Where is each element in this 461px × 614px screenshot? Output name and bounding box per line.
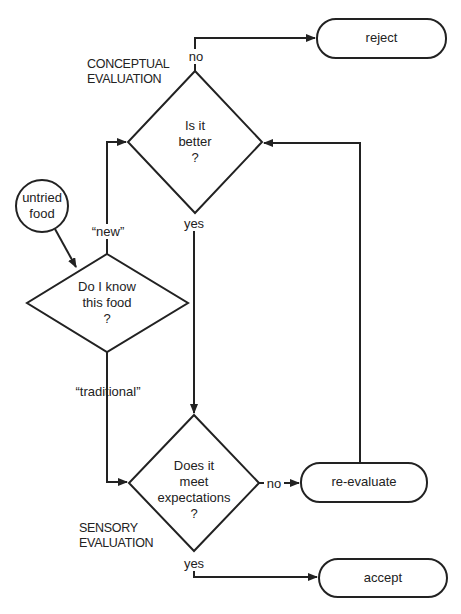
edge-better-no	[195, 38, 315, 71]
reject-label: reject	[366, 30, 398, 45]
conceptual-evaluation-label: CONCEPTUAL EVALUATION	[87, 57, 169, 87]
edge-label-meet-no: no	[263, 476, 285, 491]
meet-line3: expectations	[144, 490, 244, 506]
edge-label-traditional: “traditional”	[68, 384, 148, 399]
reject-node[interactable]: reject	[317, 30, 446, 46]
edge-label-new: “new”	[86, 224, 130, 239]
edge-know-traditional	[107, 352, 127, 482]
untried-food-line2: food	[16, 206, 68, 222]
accept-node[interactable]: accept	[319, 570, 447, 586]
is-it-better-line2: better	[155, 134, 235, 150]
accept-label: accept	[364, 570, 402, 585]
do-i-know-line1: Do I know	[57, 279, 157, 295]
edge-meet-yes	[194, 570, 317, 577]
do-i-know-line3: ?	[57, 311, 157, 327]
edge-label-better-no: no	[185, 49, 207, 64]
do-i-know-node[interactable]: Do I know this food ?	[57, 279, 157, 327]
conceptual-label-line2: EVALUATION	[87, 72, 169, 87]
meet-line1: Does it	[144, 458, 244, 474]
sensory-label-line1: SENSORY	[79, 521, 153, 536]
is-it-better-node[interactable]: Is it better ?	[155, 118, 235, 166]
untried-food-line1: untried	[16, 190, 68, 206]
do-i-know-line2: this food	[57, 295, 157, 311]
is-it-better-line1: Is it	[155, 118, 235, 134]
re-evaluate-label: re-evaluate	[331, 474, 396, 489]
meet-line2: meet	[144, 474, 244, 490]
sensory-evaluation-label: SENSORY EVALUATION	[79, 521, 153, 551]
meets-expectations-node[interactable]: Does it meet expectations ?	[144, 458, 244, 522]
edge-label-better-yes: yes	[180, 216, 208, 231]
untried-food-node[interactable]: untried food	[16, 190, 68, 222]
sensory-label-line2: EVALUATION	[79, 536, 153, 551]
edge-reevaluate-loop	[264, 143, 360, 463]
conceptual-label-line1: CONCEPTUAL	[87, 57, 169, 72]
meet-line4: ?	[144, 506, 244, 522]
edge-label-meet-yes: yes	[180, 556, 208, 571]
edge-untried-to-know	[55, 229, 76, 267]
re-evaluate-node[interactable]: re-evaluate	[301, 474, 427, 490]
is-it-better-line3: ?	[155, 150, 235, 166]
